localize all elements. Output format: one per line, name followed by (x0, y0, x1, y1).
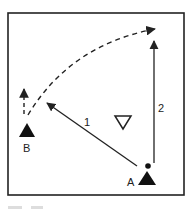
caption-fragment (8, 206, 22, 209)
defender-icon (115, 116, 131, 129)
player-b-icon (19, 123, 35, 137)
label-arrow-2: 2 (158, 102, 164, 114)
label-player-b: B (23, 142, 30, 154)
ball-icon (145, 163, 151, 169)
label-arrow-1: 1 (84, 116, 90, 128)
caption-fragment (31, 206, 43, 209)
play-diagram: 1 2 A B (0, 0, 194, 209)
player-a-icon (138, 171, 156, 185)
arrow-1 (47, 103, 137, 166)
dashed-curve-arrow (28, 29, 155, 115)
label-player-a: A (127, 176, 135, 188)
